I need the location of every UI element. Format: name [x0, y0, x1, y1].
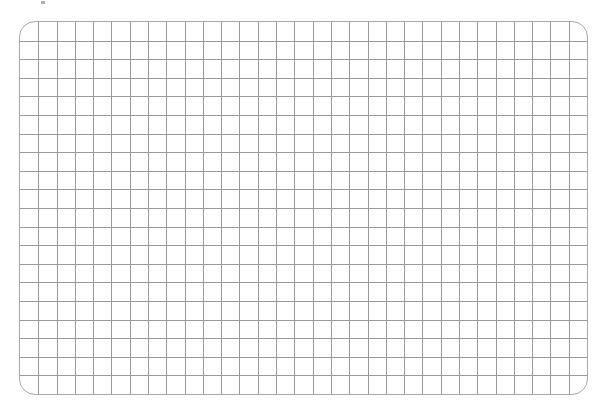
- grid-lines: [20, 22, 587, 394]
- canvas: [0, 0, 605, 414]
- grid-paper: [19, 21, 588, 395]
- cursor-fragment-icon: [41, 1, 45, 4]
